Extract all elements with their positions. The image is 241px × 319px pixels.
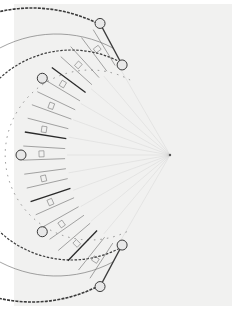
radial-guide-line — [91, 89, 170, 155]
party-wall — [23, 159, 65, 160]
radial-guide-line — [104, 76, 170, 155]
room-fixture — [39, 151, 44, 157]
room-fixture — [74, 61, 82, 69]
room-fixture — [41, 175, 47, 182]
party-wall — [82, 38, 107, 72]
room-fixture — [93, 45, 101, 53]
stair-tower — [37, 73, 47, 83]
radial-guide-line — [73, 155, 170, 190]
party-wall — [31, 188, 71, 201]
radial-guide-line — [104, 155, 170, 234]
room-fixture — [41, 126, 47, 133]
stair-tower — [95, 18, 105, 28]
stair-tower — [37, 227, 47, 237]
party-wall — [58, 223, 90, 250]
center-point-marker — [169, 154, 171, 156]
party-wall — [27, 179, 68, 188]
radial-guide-line — [91, 155, 170, 221]
stair-tower — [16, 150, 26, 160]
party-wall — [61, 57, 92, 85]
stair-tower — [95, 282, 105, 292]
radial-guide-line — [73, 120, 170, 155]
party-wall — [32, 105, 71, 119]
party-wall — [25, 132, 66, 139]
room-fixture — [58, 220, 66, 228]
party-wall — [23, 146, 65, 149]
room-fixture — [59, 80, 66, 88]
radial-guide-line — [119, 66, 171, 155]
floor-plan-drawing — [0, 0, 241, 319]
room-fixture — [47, 198, 54, 206]
stair-tower — [117, 60, 127, 70]
party-wall — [90, 243, 113, 278]
party-wall — [24, 169, 66, 174]
stair-tower — [117, 240, 127, 250]
radial-guide-line — [119, 155, 171, 244]
room-fixture — [48, 102, 55, 109]
party-wall — [50, 215, 84, 239]
party-wall — [52, 68, 86, 93]
party-wall — [78, 237, 104, 270]
room-fixture — [73, 240, 81, 248]
party-wall — [28, 118, 69, 129]
party-wall — [68, 231, 97, 261]
